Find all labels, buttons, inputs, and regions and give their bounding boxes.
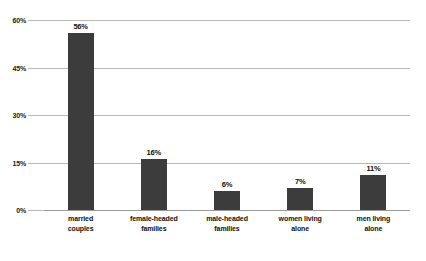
y-tick-label-60: 60% — [13, 17, 26, 24]
x-tick-label-line-2: families — [114, 224, 194, 234]
bar-value-married-couples: 56% — [73, 22, 87, 31]
bar-men-living-alone[interactable] — [360, 175, 386, 210]
x-tick-label-line-1: men living — [333, 214, 413, 224]
x-tick-label-women-living-alone: women living alone — [260, 214, 340, 233]
x-axis: married couples female-headed families m… — [44, 214, 410, 254]
x-tick-label-line-1: male-headed — [187, 214, 267, 224]
x-tick-label-male-headed-families: male-headed families — [187, 214, 267, 233]
y-axis: 60% 45% 30% 15% 0% — [0, 20, 26, 210]
x-tick-label-line-1: married — [41, 214, 121, 224]
bar-chart: 60% 45% 30% 15% 0% 56% 16% 6% — [0, 0, 426, 261]
bar-value-male-headed-families: 6% — [222, 180, 232, 189]
x-tick-label-line-2: alone — [333, 224, 413, 234]
y-tick-stub-30 — [28, 115, 44, 116]
bar-value-men-living-alone: 11% — [366, 164, 380, 173]
bar-slot-female-headed-families: 16% — [117, 20, 190, 210]
bar-slot-men-living-alone: 11% — [337, 20, 410, 210]
x-tick-label-line-1: female-headed — [114, 214, 194, 224]
x-tick-label-line-2: families — [187, 224, 267, 234]
y-tick-stub-45 — [28, 68, 44, 69]
x-tick-label-line-2: couples — [41, 224, 121, 234]
bar-value-women-living-alone: 7% — [295, 177, 305, 186]
x-tick-label-line-1: women living — [260, 214, 340, 224]
x-tick-label-married-couples: married couples — [41, 214, 121, 233]
y-tick-label-15: 15% — [13, 159, 26, 166]
bar-slot-women-living-alone: 7% — [264, 20, 337, 210]
y-tick-stub-0 — [28, 210, 44, 211]
x-tick-label-men-living-alone: men living alone — [333, 214, 413, 233]
x-tick-label-line-2: alone — [260, 224, 340, 234]
bar-married-couples[interactable] — [68, 33, 94, 210]
y-tick-stub-60 — [28, 20, 44, 21]
bar-slot-married-couples: 56% — [44, 20, 117, 210]
bar-female-headed-families[interactable] — [141, 159, 167, 210]
bars-layer: 56% 16% 6% 7% 11% — [44, 20, 410, 210]
y-tick-stub-15 — [28, 163, 44, 164]
y-tick-label-0: 0% — [16, 207, 26, 214]
x-tick-label-female-headed-families: female-headed families — [114, 214, 194, 233]
gridline-baseline-0 — [44, 210, 410, 211]
y-tick-label-45: 45% — [13, 64, 26, 71]
bar-value-female-headed-families: 16% — [147, 148, 161, 157]
bar-women-living-alone[interactable] — [287, 188, 313, 210]
bar-male-headed-families[interactable] — [214, 191, 240, 210]
bar-slot-male-headed-families: 6% — [190, 20, 263, 210]
y-tick-label-30: 30% — [13, 112, 26, 119]
